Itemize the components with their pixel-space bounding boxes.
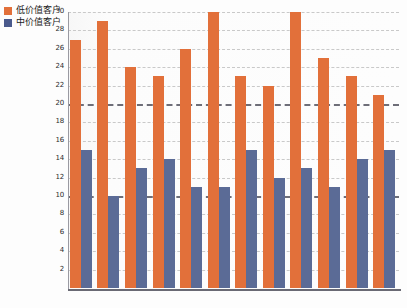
legend-swatch-mid-value-icon bbox=[4, 19, 12, 27]
y-axis-tick-label: 8 bbox=[38, 210, 64, 217]
bar-group bbox=[290, 12, 312, 288]
y-axis-tick-label: 14 bbox=[38, 155, 64, 162]
bar-low-value bbox=[318, 58, 329, 288]
x-axis-line bbox=[68, 289, 401, 291]
y-axis-tick-label: 10 bbox=[38, 192, 64, 199]
bar-mid-value bbox=[191, 187, 202, 288]
bar-low-value bbox=[346, 76, 357, 288]
y-axis-tick-label: 22 bbox=[38, 82, 64, 89]
bar-mid-value bbox=[384, 150, 395, 288]
bar-mid-value bbox=[219, 187, 230, 288]
bar-mid-value bbox=[246, 150, 257, 288]
y-axis-tick-label: 12 bbox=[38, 174, 64, 181]
plot-area bbox=[68, 12, 399, 288]
bar-mid-value bbox=[136, 168, 147, 288]
bar-low-value bbox=[290, 12, 301, 288]
bar-mid-value bbox=[81, 150, 92, 288]
bar-low-value bbox=[153, 76, 164, 288]
bar-mid-value bbox=[301, 168, 312, 288]
y-axis-tick-label: 26 bbox=[38, 45, 64, 52]
y-axis-tick-label: 4 bbox=[38, 247, 64, 254]
bar-low-value bbox=[70, 40, 81, 288]
y-axis-tick-label: 6 bbox=[38, 229, 64, 236]
y-axis-tick-label: 28 bbox=[38, 26, 64, 33]
bar-group bbox=[70, 40, 92, 288]
bar-mid-value bbox=[108, 196, 119, 288]
bar-mid-value bbox=[357, 159, 368, 288]
legend-label-mid-value: 中价值客户 bbox=[16, 18, 61, 27]
bar-group bbox=[373, 95, 395, 288]
bar-low-value bbox=[125, 67, 136, 288]
bar-group bbox=[97, 21, 119, 288]
bar-mid-value bbox=[329, 187, 340, 288]
legend-swatch-low-value-icon bbox=[4, 7, 12, 15]
bar-group bbox=[125, 67, 147, 288]
bar-mid-value bbox=[274, 178, 285, 288]
y-axis-tick-label: 16 bbox=[38, 137, 64, 144]
bar-group bbox=[346, 76, 368, 288]
bar-group bbox=[235, 76, 257, 288]
bars-layer bbox=[68, 12, 399, 288]
bar-low-value bbox=[263, 86, 274, 288]
y-axis-line bbox=[68, 12, 69, 290]
legend-item-mid-value: 中价值客户 bbox=[4, 18, 61, 27]
bar-group bbox=[180, 49, 202, 288]
bar-low-value bbox=[180, 49, 191, 288]
bar-group bbox=[263, 86, 285, 288]
y-axis-tick-label: 2 bbox=[38, 266, 64, 273]
bar-low-value bbox=[208, 12, 219, 288]
bar-chart: 低价值客户 中价值客户 30282624222018161412108642 bbox=[0, 0, 407, 308]
bar-group bbox=[153, 76, 175, 288]
bar-low-value bbox=[373, 95, 384, 288]
chart-legend: 低价值客户 中价值客户 bbox=[4, 6, 61, 27]
bar-mid-value bbox=[164, 159, 175, 288]
bar-low-value bbox=[97, 21, 108, 288]
legend-label-low-value: 低价值客户 bbox=[16, 6, 61, 15]
y-axis-tick-labels: 30282624222018161412108642 bbox=[38, 12, 64, 288]
legend-item-low-value: 低价值客户 bbox=[4, 6, 61, 15]
bar-group bbox=[208, 12, 230, 288]
y-axis-tick-label: 18 bbox=[38, 118, 64, 125]
bar-group bbox=[318, 58, 340, 288]
y-axis-tick-label: 20 bbox=[38, 100, 64, 107]
y-axis-tick-label: 24 bbox=[38, 63, 64, 70]
bar-low-value bbox=[235, 76, 246, 288]
